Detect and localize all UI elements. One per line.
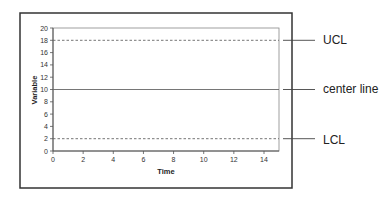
chart-frame — [20, 13, 292, 188]
y-tick-label: 4 — [44, 123, 48, 130]
y-tick-label: 16 — [40, 49, 48, 56]
y-tick-label: 6 — [44, 111, 48, 118]
x-tick-label: 4 — [111, 156, 115, 163]
x-tick-label: 0 — [51, 156, 55, 163]
x-tick-label: 14 — [260, 156, 268, 163]
y-tick-label: 2 — [44, 135, 48, 142]
lcl-label: LCL — [323, 134, 345, 146]
control-chart-figure: 02468101214161820 02468101214 Time Varia… — [0, 0, 392, 199]
x-tick-label: 2 — [81, 156, 85, 163]
x-tick-label: 8 — [172, 156, 176, 163]
center-line-label: center line — [323, 83, 378, 95]
y-tick-label: 12 — [40, 74, 48, 81]
y-axis-label: Variable — [30, 76, 39, 105]
x-axis-label: Time — [157, 167, 174, 176]
control-chart: 02468101214161820 02468101214 Time Varia… — [0, 0, 392, 199]
y-tick-label: 8 — [44, 98, 48, 105]
x-tick-label: 10 — [200, 156, 208, 163]
x-tick-label: 12 — [230, 156, 238, 163]
y-tick-label: 0 — [44, 148, 48, 155]
ucl-label: UCL — [323, 34, 347, 46]
y-tick-label: 10 — [40, 86, 48, 93]
x-tick-label: 6 — [141, 156, 145, 163]
y-tick-label: 14 — [40, 61, 48, 68]
y-tick-label: 20 — [40, 25, 48, 32]
y-tick-label: 18 — [40, 37, 48, 44]
